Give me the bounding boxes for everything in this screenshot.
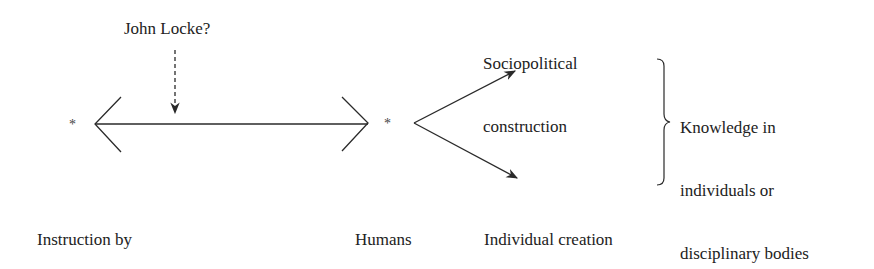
label-line: Knowledge in xyxy=(680,117,809,138)
right-curly-brace xyxy=(657,59,670,185)
label-humans-the-creators: Humans the creators xyxy=(355,187,434,269)
label-line: Humans xyxy=(355,229,434,250)
label-knowledge-in-individuals: Knowledge in individuals or disciplinary… xyxy=(680,75,809,269)
label-instruction-by-nature: Instruction by nature: nature as “templa… xyxy=(37,187,132,269)
label-line: Instruction by xyxy=(37,229,132,250)
left-asterisk-marker: * xyxy=(69,118,76,132)
label-line: Individual creation xyxy=(484,229,613,250)
middle-asterisk-marker: * xyxy=(384,117,391,131)
label-john-locke: John Locke? xyxy=(124,18,210,39)
label-line: construction xyxy=(483,116,577,137)
label-line: Sociopolitical xyxy=(483,53,577,74)
label-sociopolitical-construction: Sociopolitical construction xyxy=(483,11,577,158)
label-line: disciplinary bodies xyxy=(680,243,809,264)
label-individual-creation: Individual creation of knowledge xyxy=(484,187,613,269)
label-line: individuals or xyxy=(680,180,809,201)
